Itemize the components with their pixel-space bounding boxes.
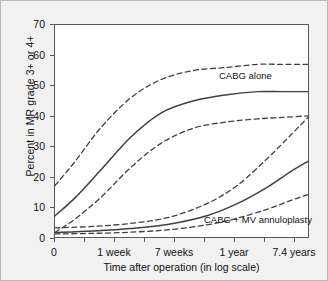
x-tick-label: 1 year bbox=[219, 246, 248, 258]
series-label-cabg-mv: CABG + MV annuloplasty bbox=[204, 214, 312, 225]
y-tick-mark bbox=[50, 116, 54, 117]
y-tick-mark bbox=[50, 85, 54, 86]
x-tick-mark-minor bbox=[204, 238, 205, 242]
x-tick-label: 7.4 years bbox=[272, 246, 315, 258]
series-curve bbox=[55, 91, 308, 215]
curve-canvas bbox=[55, 25, 308, 237]
series-curve bbox=[55, 117, 308, 228]
series-curve bbox=[55, 64, 308, 185]
y-tick-mark bbox=[50, 177, 54, 178]
x-tick-label: 7 weeks bbox=[155, 246, 194, 258]
x-tick-mark-minor bbox=[84, 238, 85, 242]
y-tick-mark bbox=[50, 207, 54, 208]
x-tick-mark bbox=[234, 238, 235, 242]
x-tick-mark bbox=[54, 238, 55, 242]
x-tick-mark bbox=[114, 238, 115, 242]
x-tick-label: 1 week bbox=[97, 246, 130, 258]
y-tick-label: 0 bbox=[15, 232, 45, 244]
y-tick-mark bbox=[50, 146, 54, 147]
plot-area bbox=[54, 24, 309, 238]
y-tick-mark bbox=[50, 55, 54, 56]
x-tick-mark bbox=[294, 238, 295, 242]
series-label-cabg-alone: CABG alone bbox=[219, 70, 272, 81]
x-tick-label: 0 bbox=[51, 246, 57, 258]
x-tick-mark-minor bbox=[264, 238, 265, 242]
x-tick-mark bbox=[174, 238, 175, 242]
chart-figure: 010203040506070 01 week7 weeks1 year7.4 … bbox=[0, 0, 328, 281]
x-tick-mark-minor bbox=[144, 238, 145, 242]
y-tick-mark bbox=[50, 24, 54, 25]
x-axis-title: Time after operation (in log scale) bbox=[54, 261, 309, 273]
y-axis-title: Percent in MR grade 3+ or 4+ bbox=[24, 6, 36, 206]
